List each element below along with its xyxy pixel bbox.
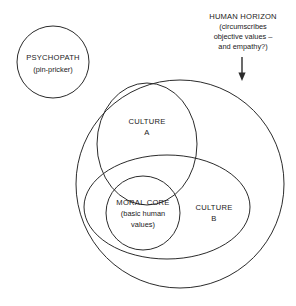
annotation-arrow-head: [238, 73, 245, 82]
psychopath-circle[interactable]: [17, 26, 89, 98]
moral-core-label-title: MORAL CORE: [116, 198, 169, 207]
human-horizon-circle[interactable]: [76, 80, 284, 288]
human-horizon-annotation-line3: and empathy?): [218, 42, 267, 51]
culture-a-label-title: CULTURE: [128, 117, 165, 126]
human-horizon-annotation-line1: (circumscribes: [219, 22, 267, 31]
moral-core-label-subtitle-line2: values): [131, 220, 155, 229]
psychopath-label-title: PSYCHOPATH: [26, 53, 80, 62]
culture-b-label-subtitle: B: [211, 214, 216, 223]
human-horizon-annotation-heading: HUMAN HORIZON: [209, 12, 277, 21]
venn-diagram-canvas: HUMAN HORIZON (circumscribes objective v…: [0, 0, 296, 306]
culture-b-label-title: CULTURE: [195, 203, 232, 212]
psychopath-label-subtitle: (pin-pricker): [33, 65, 72, 74]
moral-core-label-subtitle-line1: (basic human: [121, 209, 165, 218]
culture-a-ellipse[interactable]: [97, 83, 197, 205]
human-horizon-annotation-line2: objective values –: [214, 32, 274, 41]
culture-a-label-subtitle: A: [144, 128, 150, 137]
venn-diagram-svg: HUMAN HORIZON (circumscribes objective v…: [0, 0, 296, 306]
